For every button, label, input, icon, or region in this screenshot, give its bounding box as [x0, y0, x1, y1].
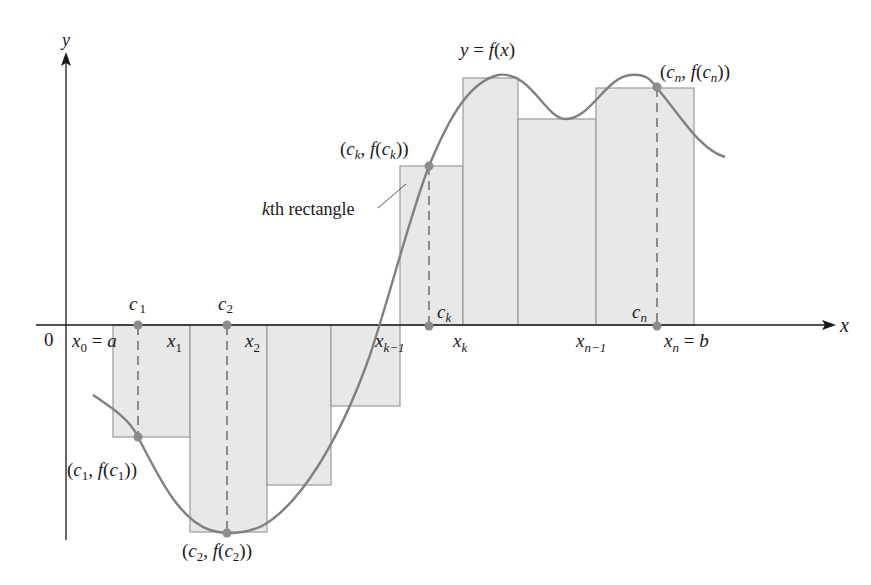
label-point-ck: (ck, f(ck)) — [340, 138, 409, 162]
label-xk: xk — [452, 330, 467, 355]
label-c2: c2 — [218, 293, 233, 316]
label-x-n-minus-1: xn−1 — [575, 330, 606, 355]
x-axis-label: x — [839, 314, 849, 336]
point-c2-fc2 — [223, 529, 232, 538]
rectangle-n — [596, 88, 694, 325]
rectangle-n-minus-1 — [518, 119, 596, 325]
rectangle-k — [400, 166, 463, 325]
origin-label: 0 — [44, 329, 54, 350]
label-c1: c1 — [129, 293, 146, 316]
riemann-sum-diagram: y x 0 y = f(x) kth rectangle x0 = a x1 x… — [0, 0, 871, 585]
label-x0-equals-a: x0 = a — [71, 330, 117, 355]
curve-label: y = f(x) — [458, 39, 515, 61]
point-c2-axis — [223, 321, 232, 330]
label-xn-equals-b: xn = b — [663, 330, 709, 355]
label-point-c1: (c1, f(c1)) — [67, 459, 137, 483]
rectangle-2 — [190, 325, 267, 532]
point-ck-axis — [425, 322, 434, 331]
y-axis-label: y — [60, 30, 70, 50]
point-cn-axis — [653, 322, 662, 331]
rectangle-k-plus-1 — [463, 78, 518, 325]
point-ck-fck — [425, 162, 434, 171]
label-point-cn: (cn, f(cn)) — [660, 61, 730, 85]
point-cn-fcn — [653, 83, 662, 92]
point-c1-fc1 — [134, 433, 143, 442]
point-c1-axis — [134, 321, 143, 330]
kth-rectangle-label: kth rectangle — [262, 199, 354, 219]
label-point-c2: (c2, f(c2)) — [182, 540, 252, 564]
